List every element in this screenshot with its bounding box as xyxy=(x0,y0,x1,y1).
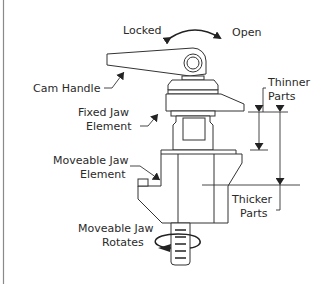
clamp-diagram: Locked Open Cam Handle Fixed Jaw Element… xyxy=(0,0,326,284)
label-moveable-jaw-2: Element xyxy=(80,168,126,181)
label-thinner-1: Thinner xyxy=(267,76,310,89)
label-locked: Locked xyxy=(123,24,161,37)
label-fixed-jaw-1: Fixed Jaw xyxy=(78,106,129,119)
threaded-stem xyxy=(171,223,190,265)
label-thinner-2: Parts xyxy=(268,90,296,103)
cam-handle xyxy=(107,48,206,76)
cam-pivot-inner xyxy=(187,57,199,69)
label-thicker-2: Parts xyxy=(240,207,268,220)
label-fixed-jaw-2: Element xyxy=(86,120,132,133)
label-thicker-1: Thicker xyxy=(231,193,273,206)
label-open: Open xyxy=(232,26,261,39)
label-rotates-2: Rotates xyxy=(102,236,144,249)
label-rotates-1: Moveable Jaw xyxy=(78,222,154,235)
fixed-jaw-element xyxy=(171,111,215,150)
label-moveable-jaw-1: Moveable Jaw xyxy=(53,154,129,167)
moveable-jaw-element xyxy=(138,150,242,223)
fixed-jaw-window xyxy=(183,118,205,140)
diagram-canvas: Locked Open Cam Handle Fixed Jaw Element… xyxy=(0,0,326,284)
collar-stack xyxy=(166,76,244,111)
locked-open-arrow-icon xyxy=(170,30,220,38)
label-cam-handle: Cam Handle xyxy=(33,82,101,95)
